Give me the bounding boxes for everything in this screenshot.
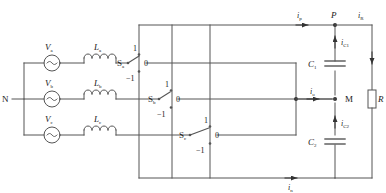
switch-c-blade[interactable] xyxy=(190,128,209,135)
inductor-a xyxy=(84,54,116,63)
label-lc: Lc xyxy=(93,114,102,125)
switch-b-contact-1[interactable] xyxy=(170,89,173,92)
ac-source-c-sine xyxy=(47,133,57,136)
label-sa-pos-0: 0 xyxy=(144,59,148,68)
switch-c[interactable] xyxy=(189,125,296,145)
current-arrows xyxy=(285,25,372,178)
label-r: R xyxy=(377,94,384,104)
load-branch xyxy=(335,25,376,178)
label-switch-a: Sa xyxy=(117,58,125,69)
label-ic2: iC2 xyxy=(341,119,350,129)
capacitor-c2 xyxy=(325,139,345,144)
dc-bus-bars xyxy=(139,25,335,178)
label-neutral: N xyxy=(2,94,9,104)
inductor-c xyxy=(84,126,116,135)
label-c2: C2 xyxy=(308,137,317,148)
label-la: La xyxy=(93,42,102,53)
label-sb-pos-0: 0 xyxy=(176,95,180,104)
label-ic1: iC1 xyxy=(341,38,350,48)
schematic-svg: N Va Vb Vc La Lb Lc Sa 1 0 −1 Sb 1 0 −1 … xyxy=(0,0,386,193)
ac-source-a-sine xyxy=(47,61,57,64)
label-sa-pos-1: 1 xyxy=(133,44,137,53)
label-in: in xyxy=(288,183,293,193)
label-node-m: M xyxy=(345,94,353,104)
phase-a-branch xyxy=(44,54,128,71)
switch-c-contact-neg1[interactable] xyxy=(209,142,212,145)
phase-c-branch xyxy=(44,126,190,143)
label-c1: C1 xyxy=(308,59,317,70)
capacitor-c1 xyxy=(325,61,345,66)
label-sb-pos-neg1: −1 xyxy=(157,110,166,119)
label-va: Va xyxy=(45,42,54,53)
switch-a-blade[interactable] xyxy=(128,56,139,63)
label-sc-pos-0: 0 xyxy=(215,131,219,140)
label-switch-c: Sc xyxy=(179,130,187,141)
inductor-b xyxy=(84,90,116,99)
switch-b-blade[interactable] xyxy=(159,92,170,99)
dc-link-leg xyxy=(296,23,345,178)
label-sc-pos-1: 1 xyxy=(204,116,208,125)
neutral-bus xyxy=(12,63,44,135)
switch-c-contact-1[interactable] xyxy=(209,125,212,128)
circuit-diagram-canvas: N Va Vb Vc La Lb Lc Sa 1 0 −1 Sb 1 0 −1 … xyxy=(0,0,386,193)
label-lb: Lb xyxy=(93,78,102,89)
label-switch-b: Sb xyxy=(148,94,156,105)
ac-source-b-sine xyxy=(47,97,57,100)
label-sa-pos-neg1: −1 xyxy=(126,74,135,83)
label-sc-pos-neg1: −1 xyxy=(196,146,205,155)
switch-b-contact-neg1[interactable] xyxy=(170,106,173,109)
label-vb: Vb xyxy=(45,78,54,89)
phase-b-branch xyxy=(44,90,159,107)
label-io: io xyxy=(310,87,315,97)
label-ip: ip xyxy=(297,11,302,21)
switch-a-contact-1[interactable] xyxy=(138,53,141,56)
resistor-r xyxy=(368,90,376,108)
label-node-p: P xyxy=(330,10,337,20)
switch-a[interactable] xyxy=(127,53,296,73)
label-iR: iR xyxy=(358,11,364,21)
switch-a-contact-neg1[interactable] xyxy=(138,70,141,73)
label-vc: Vc xyxy=(45,114,54,125)
label-sb-pos-1: 1 xyxy=(165,80,169,89)
